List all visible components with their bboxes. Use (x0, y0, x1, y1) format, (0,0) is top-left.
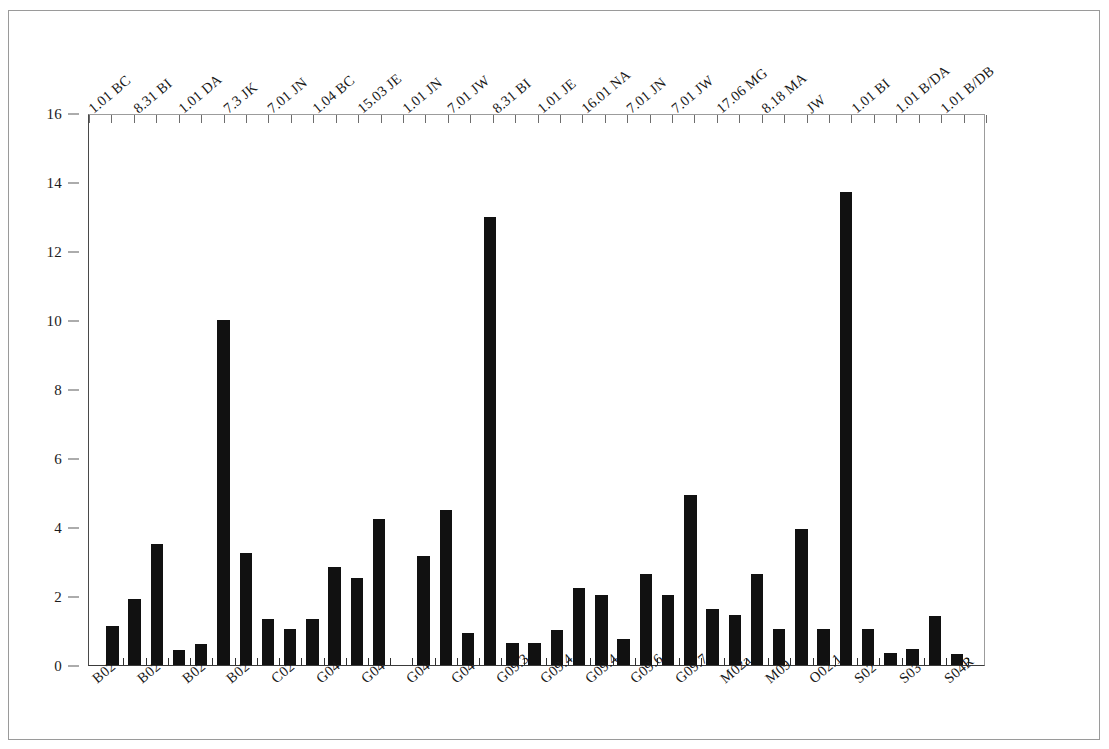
bar (929, 616, 941, 665)
x-tick-mark-bottom (857, 658, 858, 665)
x-tick-mark-top (358, 115, 359, 123)
bar (795, 529, 807, 665)
x-tick-mark-top (672, 115, 673, 123)
x-tick-mark-top (179, 115, 180, 123)
y-axis: 0246810121416 (0, 114, 88, 666)
x-tick-mark-top (291, 115, 292, 123)
figure-container: 0246810121416 1.01 BC8.31 BI1.01 DA7.3 J… (0, 0, 1109, 749)
bar (151, 544, 163, 665)
x-tick-mark-bottom (924, 658, 925, 665)
y-tick-label: 2 (54, 589, 62, 606)
bar (662, 595, 674, 665)
y-tick-mark (68, 114, 79, 115)
x-tick-mark-top (717, 115, 718, 123)
x-tick-mark-bottom (879, 658, 880, 665)
x-tick-mark-top (448, 115, 449, 123)
bar (217, 320, 229, 665)
x-tick-mark-top (605, 115, 606, 123)
bar (573, 588, 585, 665)
x-tick-mark-bottom (212, 658, 213, 665)
x-tick-mark-top (515, 115, 516, 123)
x-tick-mark-bottom (168, 658, 169, 665)
bar (640, 574, 652, 665)
x-tick-mark-top (919, 115, 920, 123)
bar (440, 510, 452, 665)
y-tick-label: 12 (46, 244, 62, 261)
x-tick-mark-bottom (257, 658, 258, 665)
x-tick-mark-bottom (457, 658, 458, 665)
bar (173, 650, 185, 665)
x-tick-mark-top (829, 115, 830, 123)
x-tick-mark-top (156, 115, 157, 123)
x-tick-mark-top (739, 115, 740, 123)
x-tick-mark-top (268, 115, 269, 123)
x-tick-mark-top (425, 115, 426, 123)
x-tick-mark-top (896, 115, 897, 123)
x-tick-mark-top (941, 115, 942, 123)
bar (840, 192, 852, 665)
x-tick-mark-top (964, 115, 965, 123)
x-tick-mark-bottom (479, 658, 480, 665)
x-tick-mark-bottom (902, 658, 903, 665)
x-tick-mark-top (650, 115, 651, 123)
x-tick-mark-bottom (946, 658, 947, 665)
bar (306, 619, 318, 665)
x-tick-mark-top (627, 115, 628, 123)
y-tick-mark (68, 252, 79, 253)
x-tick-mark-bottom (724, 658, 725, 665)
y-tick-mark (68, 321, 79, 322)
x-tick-mark-top (403, 115, 404, 123)
x-tick-mark-top (986, 115, 987, 123)
x-tick-mark-top (336, 115, 337, 123)
bar (351, 578, 363, 665)
y-tick-label: 8 (54, 382, 62, 399)
x-tick-mark-bottom (301, 658, 302, 665)
x-tick-mark-top (538, 115, 539, 123)
bar (706, 609, 718, 665)
x-tick-mark-top (381, 115, 382, 123)
y-tick-mark (68, 183, 79, 184)
y-tick-label: 4 (54, 520, 62, 537)
x-tick-mark-bottom (123, 658, 124, 665)
y-tick-label: 0 (54, 658, 62, 675)
bar (884, 653, 896, 665)
bar (262, 619, 274, 665)
y-tick-mark (68, 666, 79, 667)
x-tick-mark-top (224, 115, 225, 123)
bar (328, 567, 340, 665)
x-tick-mark-top (784, 115, 785, 123)
plot-area (88, 114, 985, 666)
x-tick-mark-bottom (546, 658, 547, 665)
x-tick-mark-top (762, 115, 763, 123)
x-tick-mark-top (493, 115, 494, 123)
y-tick-mark (68, 597, 79, 598)
x-tick-mark-top (89, 115, 90, 123)
bar (240, 553, 252, 665)
x-tick-mark-top (201, 115, 202, 123)
x-tick-mark-top (851, 115, 852, 123)
y-tick-label: 6 (54, 451, 62, 468)
x-tick-mark-bottom (635, 658, 636, 665)
y-tick-mark (68, 528, 79, 529)
x-tick-mark-bottom (768, 658, 769, 665)
x-tick-mark-top (874, 115, 875, 123)
bar (373, 519, 385, 665)
x-tick-mark-top (694, 115, 695, 123)
x-tick-mark-bottom (501, 658, 502, 665)
x-tick-mark-bottom (435, 658, 436, 665)
y-tick-label: 16 (46, 106, 62, 123)
x-tick-mark-top (807, 115, 808, 123)
y-tick-label: 14 (46, 175, 62, 192)
x-tick-mark-top (111, 115, 112, 123)
y-tick-label: 10 (46, 313, 62, 330)
x-tick-mark-top (470, 115, 471, 123)
y-tick-mark (68, 390, 79, 391)
bar (417, 556, 429, 665)
x-tick-mark-top (246, 115, 247, 123)
x-tick-mark-bottom (590, 658, 591, 665)
x-tick-mark-top (582, 115, 583, 123)
bar-series (89, 115, 984, 665)
x-tick-mark-top (313, 115, 314, 123)
bar (484, 217, 496, 665)
y-tick-mark (68, 459, 79, 460)
